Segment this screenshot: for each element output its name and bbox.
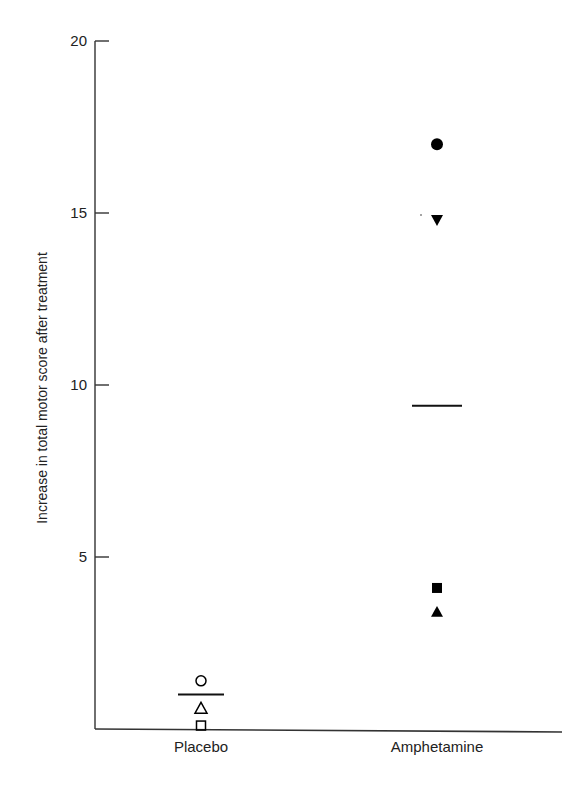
chart: 5101520 PlaceboAmphetamine Increase in t… (0, 0, 582, 788)
x-axis: PlaceboAmphetamine (95, 729, 562, 755)
filled-triangle-down-marker (431, 215, 443, 226)
y-tick-label: 15 (70, 204, 87, 221)
y-tick-label: 10 (70, 376, 87, 393)
x-category-label-amphetamine: Amphetamine (391, 738, 484, 755)
mean-lines (178, 406, 462, 695)
x-axis-line (95, 729, 562, 732)
stray-dot (420, 214, 422, 216)
filled-square-marker (432, 583, 442, 593)
y-axis: 5101520 (70, 32, 109, 729)
y-tick-label: 20 (70, 32, 87, 49)
open-triangle-up-marker (195, 702, 207, 713)
y-axis-title: Increase in total motor score after trea… (34, 252, 50, 524)
filled-circle-marker (431, 138, 443, 150)
open-circle-marker (196, 676, 206, 686)
y-tick-label: 5 (79, 548, 87, 565)
filled-triangle-up-marker (431, 606, 443, 617)
open-square-marker (197, 721, 206, 730)
x-category-label-placebo: Placebo (174, 738, 228, 755)
data-points (195, 138, 443, 730)
